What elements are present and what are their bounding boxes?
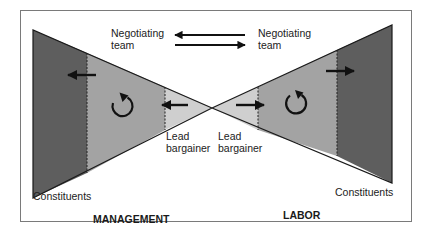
lead-bargainer-left-label: Lead bargainer (166, 130, 210, 154)
negotiating-team-right-label: Negotiating team (258, 27, 311, 51)
negotiating-team-left-line2: team (111, 39, 164, 51)
management-side-label: MANAGEMENT (93, 213, 169, 225)
management-constituents-band (33, 30, 87, 198)
management-wedge (33, 30, 212, 198)
lead-bargainer-right-line1: Lead (218, 130, 262, 142)
negotiating-team-left-line1: Negotiating (111, 27, 164, 39)
lead-bargainer-right-line2: bargainer (218, 142, 262, 154)
lead-bargainer-left-line1: Lead (166, 130, 210, 142)
constituents-left-label: Constituents (33, 190, 91, 202)
bargaining-diagram (0, 0, 425, 242)
labor-team-band (258, 50, 337, 156)
labor-constituents-band (337, 25, 392, 183)
constituents-right-label: Constituents (335, 186, 393, 198)
lead-bargainer-left-line2: bargainer (166, 142, 210, 154)
negotiating-team-right-line1: Negotiating (258, 27, 311, 39)
labor-lead-bargainer-band (212, 87, 258, 130)
labor-side-label: LABOR (283, 209, 320, 221)
management-lead-bargainer-band (165, 87, 212, 130)
negotiating-team-right-line2: team (258, 39, 311, 51)
lead-bargainer-right-label: Lead bargainer (218, 130, 262, 154)
negotiating-team-left-label: Negotiating team (111, 27, 164, 51)
